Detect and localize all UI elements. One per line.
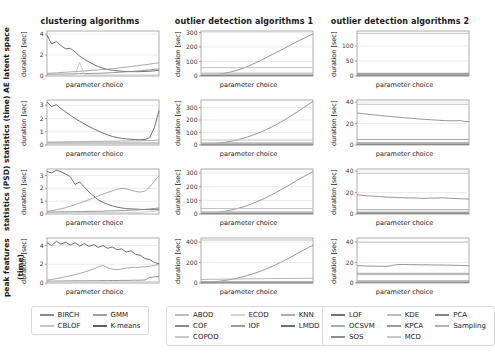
subplot-r3c1: duration [sec] 0123 parameter choice (14, 164, 166, 233)
legend-swatch (331, 314, 345, 316)
subplot-r4c3: duration [sec] 02040 parameter choice (322, 233, 478, 302)
plot-area-r1c2: 0100200300 (183, 28, 315, 80)
legend-entry-MCD: MCD (387, 333, 424, 341)
legend-swatch (231, 325, 245, 327)
legend-label: LOF (349, 311, 362, 319)
x-axis-label: parameter choice (66, 150, 123, 158)
y-tick-label: 100 (342, 42, 354, 49)
x-axis-label: parameter choice (66, 288, 123, 296)
y-tick-label: 200 (186, 116, 198, 123)
legend-entry-KDE: KDE (387, 311, 424, 319)
plot-area-r4c2: 0200400 (183, 235, 315, 287)
legend-entry-LOF: LOF (331, 311, 375, 319)
legend-entry-PCA: PCA (435, 311, 486, 319)
legend-entry-ABOD: ABOD (175, 311, 219, 319)
y-tick-label: 1 (39, 197, 43, 204)
y-axis-label: duration [sec] (174, 28, 183, 80)
y-axis-label: duration [sec] (330, 166, 339, 218)
x-axis-label: parameter choice (220, 81, 277, 89)
plot-area-r2c3: 02040 (339, 97, 471, 149)
legend-entry-SOS: SOS (331, 333, 375, 341)
legend-swatch (175, 325, 189, 327)
y-tick-label: 0 (193, 141, 197, 148)
y-axis-label: duration [sec] (330, 97, 339, 149)
x-axis-label: parameter choice (376, 81, 433, 89)
plot-border (201, 238, 313, 283)
subplot-r2c1: duration [sec] 0123 parameter choice (14, 95, 166, 164)
legend-label: Sampling (453, 322, 486, 330)
legend-swatch (40, 314, 54, 316)
y-tick-label: 2 (39, 184, 43, 191)
y-axis-label: duration [sec] (174, 97, 183, 149)
y-tick-label: 3 (39, 101, 43, 108)
legend-entry-ECOD: ECOD (231, 311, 269, 319)
x-axis-label: parameter choice (376, 150, 433, 158)
legend-entry-BIRCH: BIRCH (40, 311, 81, 319)
row-ae-latent-space: AE latent space duration [sec] 024 param… (0, 26, 483, 95)
subplot-r3c2: duration [sec] 0100200300 parameter choi… (166, 164, 322, 233)
y-tick-label: 100 (186, 197, 198, 204)
plot-border (47, 238, 159, 283)
x-axis-label: parameter choice (66, 219, 123, 227)
legend-column: ECODIOF (231, 311, 269, 341)
legend-label: GMM (111, 311, 129, 319)
y-tick-label: 200 (186, 43, 198, 50)
y-tick-label: 0 (39, 141, 43, 148)
subplot-r1c3: duration [sec] 050100 parameter choice (322, 26, 478, 95)
legend-swatch (435, 314, 449, 316)
y-tick-label: 0 (39, 279, 43, 286)
column-title-outlier-2: outlier detection algorithms 2 (322, 17, 478, 26)
legend-label: BIRCH (58, 311, 80, 319)
legend-column: BIRCHCBLOF (40, 311, 81, 330)
plot-border (201, 169, 313, 214)
legend-label: K-means (111, 322, 141, 330)
y-tick-label: 2 (39, 260, 43, 267)
y-axis-label: duration [sec] (20, 28, 29, 80)
x-axis-label: parameter choice (220, 219, 277, 227)
y-tick-label: 20 (345, 259, 353, 266)
y-tick-label: 100 (186, 58, 198, 65)
row-label-ae-latent-space: AE latent space (0, 26, 14, 95)
plot-area-r3c3: 02040 (339, 166, 471, 218)
x-axis-label: parameter choice (220, 150, 277, 158)
legend-column: KNNLMDD (281, 311, 320, 341)
y-tick-label: 300 (186, 169, 198, 176)
legend-swatch (387, 325, 401, 327)
legend-label: ABOD (193, 311, 213, 319)
legend-label: ECOD (249, 311, 269, 319)
y-tick-label: 0 (349, 210, 353, 217)
plot-area-r4c3: 02040 (339, 235, 471, 287)
y-axis-label: duration [sec] (20, 97, 29, 149)
legend-column: GMMK-means (93, 311, 141, 330)
plot-area-r3c2: 0100200300 (183, 166, 315, 218)
legend-label: LMDD (299, 322, 320, 330)
legend-swatch (281, 314, 295, 316)
legend-label: CBLOF (58, 322, 81, 330)
subplot-r4c2: duration [sec] 0200400 parameter choice (166, 233, 322, 302)
plot-area-r1c1: 024 (29, 28, 161, 80)
y-tick-label: 1 (39, 128, 43, 135)
legend-entry-OCSVM: OCSVM (331, 322, 375, 330)
y-axis-label: duration [sec] (20, 166, 29, 218)
legend-entry-Sampling: Sampling (435, 322, 486, 330)
y-tick-label: 0 (349, 72, 353, 79)
row-label-peak-features-time: peak features (time) (0, 233, 14, 302)
legend-swatch (93, 325, 107, 327)
legend-column: KDEKPCAMCD (387, 311, 424, 341)
legend-entry-LMDD: LMDD (281, 322, 320, 330)
y-tick-label: 0 (349, 141, 353, 148)
legend-entry-KPCA: KPCA (387, 322, 424, 330)
legend-swatch (331, 336, 345, 338)
row-peak-features-time: peak features (time) duration [sec] 024 … (0, 233, 483, 302)
y-tick-label: 3 (39, 172, 43, 179)
legend-entry-GMM: GMM (93, 311, 141, 319)
row-label-statistics-psd: statistics (PSD) (0, 164, 14, 233)
legend-swatch (387, 314, 401, 316)
legend-swatch (281, 325, 295, 327)
plot-border (357, 31, 469, 76)
subplot-r1c1: duration [sec] 024 parameter choice (14, 26, 166, 95)
row-statistics-psd: statistics (PSD) duration [sec] 0123 par… (0, 164, 483, 233)
y-tick-label: 0 (193, 72, 197, 79)
plot-area-r3c1: 0123 (29, 166, 161, 218)
legends-row: BIRCHCBLOFGMMK-means ABODCOFCOPODECODIOF… (0, 306, 483, 346)
